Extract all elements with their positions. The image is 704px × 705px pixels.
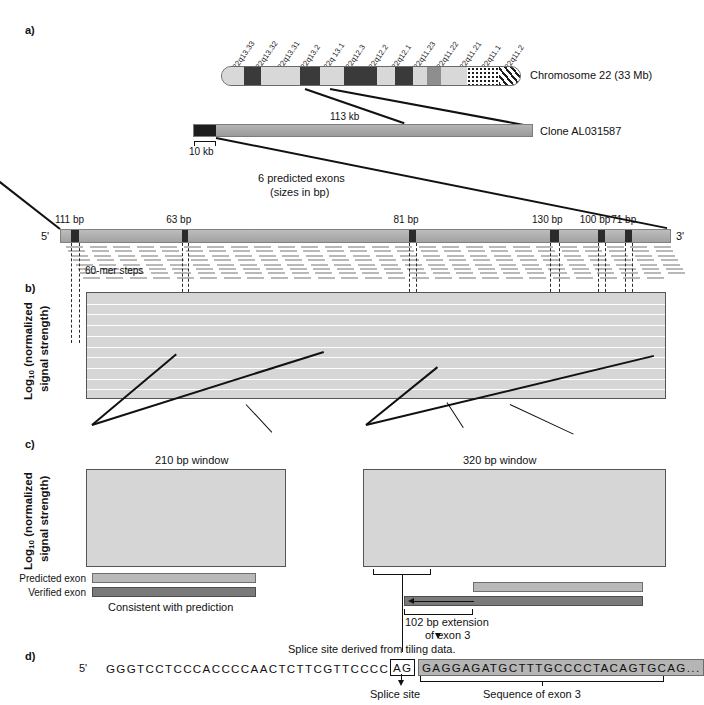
peak2-leader-line xyxy=(246,404,273,432)
exon-block-3 xyxy=(409,230,416,242)
exon-block-4 xyxy=(550,230,559,242)
leader-line-clone-left xyxy=(0,137,61,230)
exon-map-title-line2: (sizes in bp) xyxy=(270,186,329,198)
exon-block-2 xyxy=(182,230,188,242)
exon-size-label-4: 130 bp xyxy=(532,214,563,225)
exon-size-label-3: 81 bp xyxy=(393,214,418,225)
panel-b-ylabel: Log10 (normalized xyxy=(22,302,36,400)
panel-c-label: c) xyxy=(25,438,35,450)
exon-block-6 xyxy=(625,230,632,242)
peak3-leader-line-left xyxy=(447,402,464,428)
extension-arrow xyxy=(408,598,474,604)
panel-b-plot-area xyxy=(86,292,666,399)
legend-predicted-exon-label: Predicted exon xyxy=(10,573,86,584)
panel-c-ylabel-norm: (normalized xyxy=(22,472,34,540)
exon-block-1 xyxy=(71,230,79,242)
legend-verified-exon-label: Verified exon xyxy=(10,587,86,598)
panel-b-ylabel-line3: signal strength) xyxy=(38,306,50,392)
extension-label-line1: 102 bp extension xyxy=(405,616,489,628)
panel-b-gridline-h xyxy=(87,325,665,326)
clone-bar-region-highlight xyxy=(194,125,216,136)
exon-size-label-6: 71 bp xyxy=(611,214,636,225)
exon-size-label-1: 111 bp xyxy=(55,214,84,225)
exon-map-title-line1: 6 predicted exons xyxy=(258,172,345,184)
panel-b-gridline-h xyxy=(87,314,665,315)
splice-dinucleotide-box: AG xyxy=(390,659,415,676)
clone-caption: Clone AL031587 xyxy=(540,125,621,137)
extension-arrow-down-icon xyxy=(435,633,441,639)
exon3-bracket-tick xyxy=(542,682,543,686)
chromosome-ideogram xyxy=(221,66,521,86)
predicted-exon-bar-right xyxy=(473,582,643,592)
panel-b-label: b) xyxy=(25,282,35,294)
predicted-exon-bar-left xyxy=(92,573,256,583)
tiling-path-body xyxy=(60,229,671,243)
splice-site-label: Splice site xyxy=(370,688,420,700)
tiling-path-bar xyxy=(60,229,671,243)
exon-size-label-5: 100 bp xyxy=(580,214,611,225)
panel-b-ylabel-norm: (normalized xyxy=(22,302,34,370)
clone-bar-body xyxy=(193,124,533,137)
peak3-leader-line-right xyxy=(510,404,574,434)
panel-d-label: d) xyxy=(25,650,35,662)
panel-b-gridline-h xyxy=(87,304,665,305)
panel-b-gridline-h xyxy=(87,379,665,380)
panel-b-gridline-h xyxy=(87,347,665,348)
extension-guide-line xyxy=(402,575,403,652)
panel-c-left-conclusion: Consistent with prediction xyxy=(108,601,233,613)
verified-exon-bar-left xyxy=(92,587,256,597)
panel-b-ylabel-log: Log xyxy=(22,379,34,400)
extension-label-line2: of exon 3 xyxy=(425,629,470,641)
clone-bar xyxy=(193,124,533,137)
panel-c-ylabel-line3: signal strength) xyxy=(38,476,50,562)
panel-c-ylabel: Log10 (normalized xyxy=(22,472,36,570)
panel-a-label: a) xyxy=(25,24,35,36)
panel-c-right-title: 320 bp window xyxy=(463,454,536,466)
three-prime-label-map: 3' xyxy=(676,230,684,242)
exon-block-5 xyxy=(598,230,605,242)
splice-site-note: Splice site derived from tiling data. xyxy=(288,643,456,655)
panel-b-gridline-h xyxy=(87,336,665,337)
five-prime-label-sequence: 5' xyxy=(79,662,87,674)
exon-guide-dash-1-0 xyxy=(71,243,72,343)
panel-c-ylabel-log: Log xyxy=(22,549,34,570)
exon3-sequence-shaded: GAGGAGATGCTTTGCCCCTACAGTGCAG... xyxy=(418,659,704,676)
chromosome-caption: Chromosome 22 (33 Mb) xyxy=(530,69,652,81)
panel-b-gridline-h xyxy=(87,389,665,390)
panel-c-ylabel-sub: 10 xyxy=(27,540,36,549)
panel-c-right-plot-area xyxy=(363,469,666,567)
extension-bracket-bottom xyxy=(404,609,473,615)
splice-site-arrow-icon xyxy=(398,680,404,686)
panel-c-left-title: 210 bp window xyxy=(155,454,228,466)
exon3-sequence-label: Sequence of exon 3 xyxy=(483,688,581,700)
clone-length-label: 113 kb xyxy=(330,111,359,122)
exon-size-label-2: 63 bp xyxy=(166,214,191,225)
clone-scale-label: 10 kb xyxy=(189,146,213,157)
five-prime-label-map: 5' xyxy=(41,230,49,242)
panel-c-left-plot-area xyxy=(86,469,286,567)
panel-b-gridline-h xyxy=(87,368,665,369)
chromosome-body xyxy=(221,66,521,86)
exon-guide-dash-1-1 xyxy=(79,243,80,343)
upstream-sequence: GGGTCCTCCCACCCCAACTCTTCGTTCCCC xyxy=(106,662,389,675)
panel-b-ylabel-sub: 10 xyxy=(27,370,36,379)
